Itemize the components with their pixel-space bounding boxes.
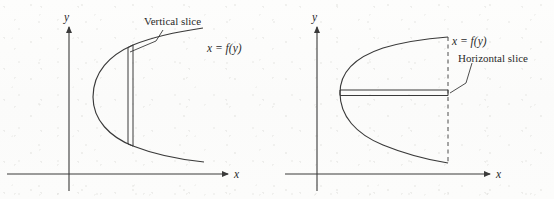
left-panel-slice-label: Vertical slice <box>144 15 201 27</box>
left-panel-curve-label: x = f(y) <box>206 42 242 55</box>
left-panel-curve-upper <box>93 28 203 97</box>
right-panel-y-axis-label: y <box>311 11 318 24</box>
right-panel-slice-leader <box>450 63 472 93</box>
left-panel-y-axis-label: y <box>63 11 70 24</box>
left-panel-vertical-slice <box>128 45 133 146</box>
left-panel-curve-lower <box>93 97 204 162</box>
right-panel-curve-label: x = f(y) <box>451 35 487 48</box>
figure-sheet: y x Vertical slice x = f(y) <box>0 0 554 199</box>
right-panel-x-axis-label: x <box>495 168 502 180</box>
right-panel-curve-lower <box>340 93 448 163</box>
right-panel: y x x = f(y) Horizontal slice <box>285 11 528 191</box>
right-panel-horizontal-slice <box>340 90 448 96</box>
left-panel-x-axis-label: x <box>233 168 240 180</box>
left-panel: y x Vertical slice x = f(y) <box>7 11 242 191</box>
right-panel-curve-upper <box>340 37 448 93</box>
left-panel-slice-leader <box>130 30 163 52</box>
right-panel-slice-label: Horizontal slice <box>458 52 528 64</box>
